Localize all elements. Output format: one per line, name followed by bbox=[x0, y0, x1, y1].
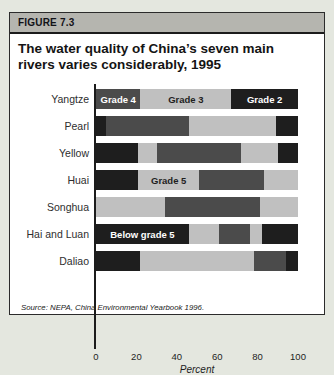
segment-grade-label: Grade 3 bbox=[168, 94, 203, 105]
figure-box: FIGURE 7.3 The water quality of China’s … bbox=[9, 12, 325, 315]
bar-segment bbox=[96, 116, 106, 136]
chart-row-songhua: Songhua bbox=[10, 197, 324, 217]
x-tick-label: 0 bbox=[93, 351, 98, 362]
bar-segment: Grade 4 bbox=[96, 89, 140, 109]
figure-title-line2: rivers varies considerably, 1995 bbox=[18, 57, 316, 73]
bar-segment bbox=[250, 224, 262, 244]
bar-segment bbox=[138, 143, 156, 163]
bar-segment bbox=[96, 251, 140, 271]
source-prefix: Source: NEPA, bbox=[21, 303, 75, 312]
bar-segment: Below grade 5 bbox=[96, 224, 189, 244]
segment-grade-label: Grade 2 bbox=[247, 94, 282, 105]
river-label: Huai bbox=[10, 170, 89, 190]
stacked-bar: Below grade 5 bbox=[96, 224, 298, 244]
bar-segment bbox=[96, 197, 165, 217]
bar-segment bbox=[241, 143, 277, 163]
river-label: Hai and Luan bbox=[10, 224, 89, 244]
bar-segment bbox=[199, 170, 264, 190]
bar-segment: Grade 3 bbox=[140, 89, 231, 109]
bar-segment bbox=[106, 116, 189, 136]
river-label: Yangtze bbox=[10, 89, 89, 109]
bar-segment: Grade 2 bbox=[231, 89, 298, 109]
bar-segment: Grade 5 bbox=[138, 170, 199, 190]
figure-tag: FIGURE 7.3 bbox=[18, 17, 74, 28]
x-tick-label: 40 bbox=[172, 351, 183, 362]
figure-title: The water quality of China’s seven main … bbox=[18, 41, 316, 73]
stacked-bar bbox=[96, 116, 298, 136]
chart-row-hai-and-luan: Hai and LuanBelow grade 5 bbox=[10, 224, 324, 244]
chart-row-yellow: Yellow bbox=[10, 143, 324, 163]
river-label: Songhua bbox=[10, 197, 89, 217]
bar-segment bbox=[157, 143, 242, 163]
bar-segment bbox=[165, 197, 260, 217]
x-axis-label: Percent bbox=[96, 364, 298, 375]
segment-grade-label: Grade 5 bbox=[151, 175, 186, 186]
bar-segment bbox=[264, 170, 298, 190]
chart-row-huai: HuaiGrade 5 bbox=[10, 170, 324, 190]
bar-segment bbox=[278, 143, 298, 163]
bar-segment bbox=[140, 251, 253, 271]
segment-grade-label: Below grade 5 bbox=[110, 229, 174, 240]
river-label: Pearl bbox=[10, 116, 89, 136]
stacked-bar bbox=[96, 251, 298, 271]
bar-segment bbox=[260, 197, 298, 217]
bar-segment bbox=[276, 116, 298, 136]
figure-tag-band: FIGURE 7.3 bbox=[10, 13, 324, 34]
x-tick-label: 20 bbox=[131, 351, 142, 362]
bar-segment bbox=[189, 116, 276, 136]
stacked-bar bbox=[96, 143, 298, 163]
chart-row-yangtze: YangtzeGrade 4Grade 3Grade 2 bbox=[10, 89, 324, 109]
source-line: Source: NEPA, China Environmental Yearbo… bbox=[21, 303, 316, 312]
bar-segment bbox=[286, 251, 298, 271]
bar-segment bbox=[262, 224, 298, 244]
bar-segment bbox=[96, 143, 138, 163]
stacked-bar bbox=[96, 197, 298, 217]
source-book-title: China Environmental Yearbook 1996. bbox=[75, 303, 204, 312]
stacked-bar: Grade 4Grade 3Grade 2 bbox=[96, 89, 298, 109]
river-label: Daliao bbox=[10, 251, 89, 271]
river-label: Yellow bbox=[10, 143, 89, 163]
chart-row-daliao: Daliao bbox=[10, 251, 324, 271]
bar-segment bbox=[189, 224, 219, 244]
figure-title-line1: The water quality of China’s seven main bbox=[18, 41, 316, 57]
stacked-bar-chart: 020406080100 Percent YangtzeGrade 4Grade… bbox=[10, 89, 324, 304]
stacked-bar: Grade 5 bbox=[96, 170, 298, 190]
x-tick-label: 100 bbox=[290, 351, 306, 362]
chart-row-pearl: Pearl bbox=[10, 116, 324, 136]
segment-grade-label: Grade 4 bbox=[101, 94, 136, 105]
x-tick-label: 60 bbox=[212, 351, 223, 362]
x-axis-ticks: 020406080100 bbox=[10, 351, 324, 363]
bar-segment bbox=[96, 170, 138, 190]
bar-segment bbox=[254, 251, 286, 271]
bar-segment bbox=[219, 224, 249, 244]
x-tick-label: 80 bbox=[252, 351, 263, 362]
